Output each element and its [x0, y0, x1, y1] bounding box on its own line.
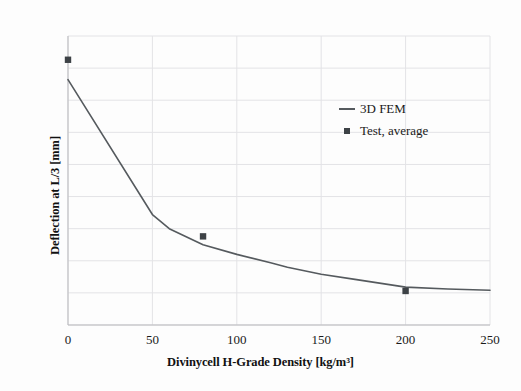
x-tick-label: 250	[460, 332, 520, 348]
y-axis-title-text: Deflection at L/3 [mm]	[48, 136, 63, 255]
line-key-icon	[336, 108, 358, 110]
x-axis-title: Divinycell H-Grade Density [kg/m³]	[0, 355, 521, 370]
x-tick-label: 0	[38, 332, 98, 348]
plot-area	[68, 36, 490, 325]
legend-label: Test, average	[358, 123, 428, 139]
square-marker-key-icon	[336, 128, 358, 134]
chart-figure: Deflection at L/3 [mm] 00,511,522,533,54…	[0, 0, 521, 391]
legend: 3D FEM Test, average	[336, 98, 428, 142]
legend-label: 3D FEM	[358, 101, 406, 117]
y-axis-title: Deflection at L/3 [mm]	[0, 0, 18, 391]
x-tick-label: 50	[122, 332, 182, 348]
x-tick-label: 100	[207, 332, 267, 348]
legend-item-test-average: Test, average	[336, 120, 428, 142]
x-tick-label: 150	[291, 332, 351, 348]
legend-item-3d-fem: 3D FEM	[336, 98, 428, 120]
data-series-layer	[68, 36, 490, 325]
x-tick-label: 200	[376, 332, 436, 348]
